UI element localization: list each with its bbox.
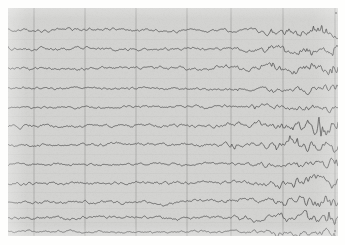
registration-mark-1: [334, 230, 336, 232]
registration-mark-2: [335, 12, 337, 14]
eeg-edge-marks: [8, 8, 338, 236]
eeg-screenshot-root: [0, 0, 345, 245]
eeg-chart-paper: [8, 8, 338, 236]
